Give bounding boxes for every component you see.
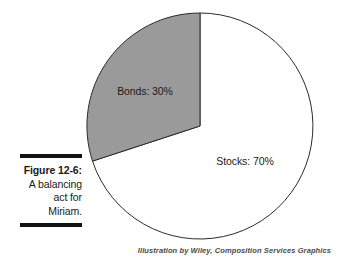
caption-rule-top [20, 154, 82, 158]
figure-caption-text: Figure 12-6: A balancing act for Miriam. [20, 164, 82, 218]
pie-label-stocks: Stocks: 70% [216, 155, 273, 167]
figure-caption-block: Figure 12-6: A balancing act for Miriam. [20, 154, 82, 227]
pie-label-bonds: Bonds: 30% [117, 85, 173, 97]
caption-rule-bottom [20, 223, 82, 227]
caption-line-2: act for [20, 191, 82, 205]
illustration-credit: Illustration by Wiley, Composition Servi… [138, 246, 331, 255]
caption-line-3: Miriam. [20, 205, 82, 219]
figure-page: Bonds: 30% Stocks: 70% Figure 12-6: A ba… [0, 0, 341, 265]
caption-line-1: A balancing [20, 178, 82, 192]
figure-number-label: Figure 12-6: [20, 164, 82, 178]
